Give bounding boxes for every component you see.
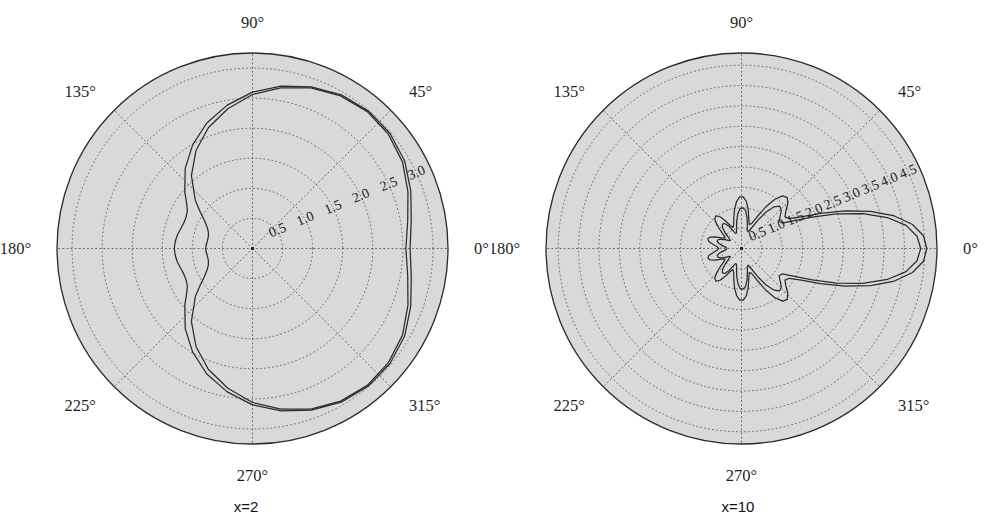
panel-caption-x10: x=10 bbox=[492, 498, 984, 515]
angle-tick-180: 180° bbox=[0, 239, 31, 258]
angle-tick-135: 135° bbox=[554, 82, 585, 101]
angle-tick-45: 45° bbox=[898, 82, 921, 101]
angle-tick-0: 0° bbox=[963, 239, 978, 258]
polar-plot-x2-svg: 0°45°90°135°180°225°270°315°0.51.01.52.0… bbox=[0, 0, 492, 490]
polar-panel-x10: 0°45°90°135°180°225°270°315°0.51.01.52.0… bbox=[492, 0, 984, 530]
angle-tick-225: 225° bbox=[65, 396, 96, 415]
panel-caption-x2: x=2 bbox=[0, 498, 492, 515]
angle-tick-315: 315° bbox=[409, 396, 440, 415]
origin-dot bbox=[251, 247, 254, 250]
angle-tick-180: 180° bbox=[492, 239, 520, 258]
angle-tick-90: 90° bbox=[730, 13, 753, 32]
angle-tick-90: 90° bbox=[241, 13, 264, 32]
angle-tick-135: 135° bbox=[65, 82, 96, 101]
figure-root: 0°45°90°135°180°225°270°315°0.51.01.52.0… bbox=[0, 0, 984, 530]
angle-tick-45: 45° bbox=[409, 82, 432, 101]
angle-tick-315: 315° bbox=[898, 396, 929, 415]
polar-panel-x2: 0°45°90°135°180°225°270°315°0.51.01.52.0… bbox=[0, 0, 492, 530]
angle-tick-270: 270° bbox=[726, 466, 757, 485]
polar-plot-x10-svg: 0°45°90°135°180°225°270°315°0.51.01.52.0… bbox=[492, 0, 984, 490]
angle-tick-225: 225° bbox=[554, 396, 585, 415]
angle-tick-0: 0° bbox=[474, 239, 489, 258]
origin-dot bbox=[740, 247, 743, 250]
angle-tick-270: 270° bbox=[237, 466, 268, 485]
